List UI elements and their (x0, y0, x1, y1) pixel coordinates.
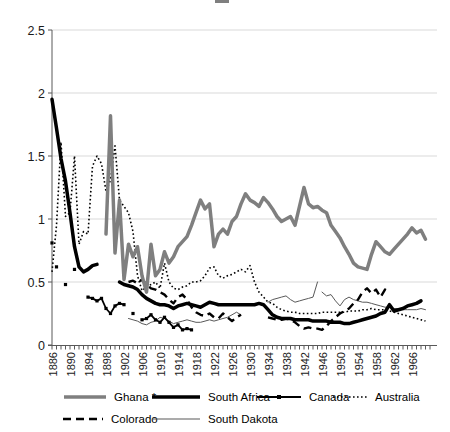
x-axis-labels: 1886189018941898190219061910191419181922… (47, 352, 419, 376)
x-axis-tick-label: 1922 (209, 352, 221, 376)
legend-label: Ghana * (114, 391, 157, 403)
data-point-marker (172, 326, 175, 329)
data-point-marker (149, 313, 152, 316)
legend-label: South Dakota (208, 413, 278, 425)
legend-label: Canada (309, 391, 350, 403)
data-point-marker (145, 317, 148, 320)
x-axis-tick-label: 1902 (119, 352, 131, 376)
legend-item-south-africa: South Africa (152, 391, 271, 403)
data-point-marker (104, 307, 107, 310)
data-point-marker (100, 297, 103, 300)
data-point-marker (167, 321, 170, 324)
chart-figure: 00.511.522.51886189018941898190219061910… (0, 0, 450, 432)
data-point-marker (131, 312, 134, 315)
series-line (268, 282, 318, 302)
legend-item-colorado: Colorado (63, 413, 158, 425)
x-axis-tick-label: 1950 (335, 352, 347, 376)
x-axis-tick-label: 1962 (389, 352, 401, 376)
data-point-marker (163, 316, 166, 319)
x-axis-tick-label: 1930 (245, 352, 257, 376)
x-axis-tick-label: 1886 (47, 352, 59, 376)
x-axis-tick-label: 1910 (155, 352, 167, 376)
data-point-marker (190, 328, 193, 331)
x-axis-tick-label: 1898 (101, 352, 113, 376)
x-axis-tick-label: 1906 (137, 352, 149, 376)
x-axis-tick-label: 1954 (353, 352, 365, 376)
series-line (142, 315, 192, 330)
y-axis-tick-label: 0.5 (28, 276, 45, 290)
data-point-marker (109, 312, 112, 315)
x-axis-tick-label: 1958 (371, 352, 383, 376)
data-point-marker (185, 327, 188, 330)
x-axis-tick-label: 1946 (317, 352, 329, 376)
data-point-marker (64, 283, 67, 286)
legend-label: Colorado (111, 413, 158, 425)
y-axis-labels: 00.511.522.5 (28, 24, 45, 353)
data-point-marker (181, 328, 184, 331)
data-point-marker (86, 296, 89, 299)
data-point-marker (73, 268, 76, 271)
data-point-marker (95, 299, 98, 302)
series-line (322, 292, 426, 310)
data-point-marker (118, 302, 121, 305)
x-axis-tick-label: 1918 (191, 352, 203, 376)
legend-label: Australia (375, 391, 420, 403)
y-axis-tick-label: 2 (38, 87, 45, 101)
x-axis-tick-label: 1942 (299, 352, 311, 376)
cropped-title-mark (215, 0, 229, 3)
data-point-marker (154, 318, 157, 321)
y-axis-tick-label: 2.5 (28, 24, 45, 38)
data-point-marker (158, 321, 161, 324)
x-axis-tick-label: 1966 (407, 352, 419, 376)
legend-item-ghana: Ghana * (64, 391, 157, 403)
x-axis-tick-label: 1890 (65, 352, 77, 376)
data-point-marker (50, 241, 53, 244)
series-ghana (106, 116, 426, 292)
legend-marker-sample (277, 395, 281, 399)
legend-item-canada: Canada (257, 391, 350, 403)
series-line (106, 116, 426, 292)
y-axis-tick-label: 1 (38, 213, 45, 227)
y-axis-tick-label: 1.5 (28, 150, 45, 164)
x-axis-tick-label: 1938 (281, 352, 293, 376)
y-axis-tick-label: 0 (38, 339, 45, 353)
data-point-marker (113, 304, 116, 307)
data-point-marker (91, 297, 94, 300)
line-chart: 00.511.522.51886189018941898190219061910… (0, 0, 450, 432)
series-line (52, 99, 97, 272)
data-point-marker (55, 265, 58, 268)
x-axis-tick-label: 1894 (83, 352, 95, 376)
data-point-marker (176, 323, 179, 326)
data-point-marker (140, 318, 143, 321)
x-axis-tick-label: 1934 (263, 352, 275, 376)
x-axis-tick-label: 1914 (173, 352, 185, 376)
legend-item-south-dakota: South Dakota (152, 413, 278, 425)
data-point-marker (122, 303, 125, 306)
x-axis-tick-label: 1926 (227, 352, 239, 376)
chart-legend: Ghana *South AfricaCanadaAustraliaColora… (63, 391, 420, 425)
